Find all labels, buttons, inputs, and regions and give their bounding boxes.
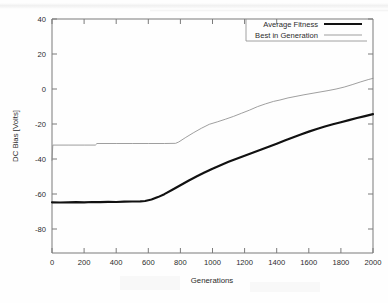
- x-axis-title: Generations: [191, 276, 234, 285]
- y-tick-label: -20: [35, 120, 46, 129]
- x-tick-label: 1200: [236, 258, 253, 267]
- x-tick-label: 1600: [300, 258, 317, 267]
- y-tick-label: -80: [35, 225, 46, 234]
- series-line-average-fitness: [52, 114, 373, 202]
- y-tick-label: 0: [42, 85, 46, 94]
- y-tick-label: -60: [35, 190, 46, 199]
- y-axis-tick-labels: 40 20 0 -20 -40 -60 -80: [35, 15, 46, 234]
- plot-frame: [52, 19, 373, 253]
- y-axis-title: DC Bias [Volts]: [11, 110, 20, 162]
- x-tick-label: 1800: [332, 258, 349, 267]
- fitness-line-chart: 40 20 0 -20 -40 -60 -80: [0, 0, 388, 303]
- legend-label-average-fitness: Average Fitness: [263, 20, 318, 29]
- y-axis-ticks: [52, 19, 373, 229]
- data-series-group: [52, 78, 373, 202]
- x-tick-label: 1400: [268, 258, 285, 267]
- x-tick-label: 2000: [365, 258, 382, 267]
- series-line-best-in-generation: [52, 78, 373, 160]
- y-tick-label: 20: [38, 50, 46, 59]
- x-tick-label: 800: [174, 258, 187, 267]
- x-tick-label: 200: [78, 258, 91, 267]
- x-axis-ticks: [52, 19, 373, 253]
- y-tick-label: 40: [38, 15, 46, 24]
- x-tick-label: 600: [142, 258, 155, 267]
- x-tick-label: 400: [110, 258, 123, 267]
- x-axis-tick-labels: 0 200 400 600 800 1000 1200 1400 1600 18…: [50, 258, 382, 267]
- y-tick-label: -40: [35, 155, 46, 164]
- legend: Average Fitness Best in Generation: [246, 19, 367, 41]
- x-tick-label: 1000: [204, 258, 221, 267]
- x-tick-label: 0: [50, 258, 54, 267]
- chart-page: 40 20 0 -20 -40 -60 -80: [0, 0, 388, 303]
- legend-label-best-in-generation: Best in Generation: [255, 31, 318, 40]
